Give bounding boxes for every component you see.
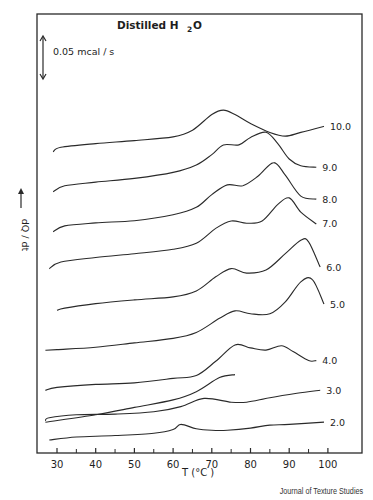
- curve-9-0: [53, 132, 316, 192]
- curve-label: 8.0: [322, 194, 337, 205]
- plot-frame: [37, 14, 362, 453]
- title-tail: O: [193, 19, 202, 31]
- curve-4-0: [45, 344, 316, 390]
- scale-bar: 0.05 mcal / s: [40, 36, 114, 79]
- x-tick-label: 60: [167, 459, 180, 470]
- curve-label: 6.0: [326, 262, 341, 273]
- title: Distilled H 2 O: [117, 19, 202, 34]
- curve-label: 10.0: [330, 121, 351, 132]
- curve-10-0: [53, 110, 324, 152]
- title-main: Distilled H: [117, 19, 178, 31]
- y-axis-title: dQ / dt: [20, 219, 31, 252]
- journal-credit: Journal of Texture Studies: [280, 486, 363, 496]
- x-tick-label: 40: [89, 459, 102, 470]
- y-axis-label: dQ / dt: [20, 219, 31, 252]
- x-axis-ticks: [57, 448, 328, 453]
- x-tick-label: 30: [51, 459, 64, 470]
- x-tick-label: 90: [283, 459, 296, 470]
- curve-label: 3.0: [326, 385, 341, 396]
- curve-2-0: [49, 422, 324, 440]
- curve-label: 9.0: [322, 162, 337, 173]
- curve-label: 5.0: [330, 299, 345, 310]
- title-subscript: 2: [187, 25, 192, 34]
- dsc-thermogram-chart: Distilled H 2 O 0.05 mcal / s dQ / dt 30…: [0, 0, 373, 500]
- curve-label: 4.0: [322, 355, 337, 366]
- x-axis-title: T (°C ): [181, 467, 214, 478]
- curve-6-0: [57, 239, 320, 311]
- x-tick-label: 50: [128, 459, 141, 470]
- curve-8-0: [53, 163, 316, 232]
- x-tick-label: 100: [318, 459, 337, 470]
- curve-label: 7.0: [322, 218, 337, 229]
- curve-label: 2.0: [330, 417, 345, 428]
- x-tick-label: 80: [244, 459, 257, 470]
- thermogram-curves: [45, 110, 324, 440]
- curve-5-0: [45, 278, 324, 351]
- scale-bar-label: 0.05 mcal / s: [53, 46, 114, 57]
- y-axis-arrow-icon: [18, 188, 24, 194]
- curve-labels: 10.09.08.07.06.05.04.03.02.0: [322, 121, 351, 428]
- curve-7-0: [49, 198, 316, 269]
